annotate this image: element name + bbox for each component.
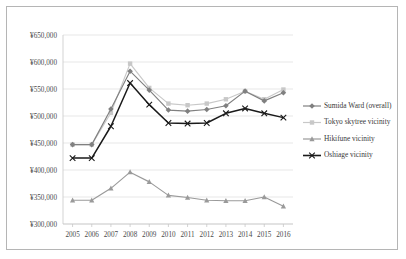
data-point-marker [185,108,191,114]
data-point-marker [310,120,314,124]
data-point-marker [127,80,133,86]
x-axis-tick-label: 2010 [161,231,176,239]
x-axis-tick-label: 2013 [219,231,234,239]
y-axis-tick-label: ¥300,000 [30,221,57,229]
y-axis-tick-label: ¥500,000 [30,113,57,121]
y-axis-tick-label: ¥450,000 [30,140,57,148]
y-axis-tick-label: ¥650,000 [30,32,57,40]
line-chart: ¥650,000¥600,000¥550,000¥500,000¥450,000… [7,7,399,251]
series-tokyo-skytree-vicinity [70,61,285,146]
series-sumida-ward-overall [70,68,286,147]
y-axis-tick-label: ¥350,000 [30,194,57,202]
series-hikifune-vicinity [70,169,286,208]
data-point-marker [224,97,228,101]
data-point-marker [185,103,189,107]
x-axis-tick-label: 2008 [123,231,138,239]
data-point-marker [146,102,152,108]
chart-plot-area: ¥650,000¥600,000¥550,000¥500,000¥450,000… [7,7,397,249]
y-axis-tick-label: ¥550,000 [30,86,57,94]
legend-item-label: Tokyo skytree vicinity [324,117,391,126]
chart-legend: Sumida Ward (overall)Tokyo skytree vicin… [303,101,392,160]
chart-figure: ¥650,000¥600,000¥550,000¥500,000¥450,000… [6,6,398,250]
x-axis-tick-label: 2006 [85,231,100,239]
legend-item-label: Oshiage vicinity [324,150,373,159]
series-oshiage-vicinity [70,80,286,161]
x-axis-tick-label: 2011 [181,231,196,239]
x-axis-tick-label: 2009 [142,231,157,239]
x-axis-tick-label: 2007 [104,231,119,239]
x-axis-tick-label: 2015 [257,231,272,239]
y-axis-tick-label: ¥600,000 [30,59,57,67]
data-point-marker [108,123,114,129]
legend-item-label: Sumida Ward (overall) [324,101,392,110]
series-line [73,71,284,144]
x-axis-tick-label: 2012 [200,231,215,239]
x-axis-tick-label: 2005 [65,231,80,239]
data-point-marker [128,61,132,65]
data-point-marker [205,101,209,105]
legend-item-label: Hikifune vicinity [324,134,375,143]
y-axis-tick-label: ¥400,000 [30,167,57,175]
series-line [73,172,284,206]
series-line [73,64,284,145]
x-axis-tick-label: 2016 [276,231,291,239]
data-point-marker [166,101,170,105]
x-axis-tick-label: 2014 [238,231,253,239]
data-point-marker [309,103,315,109]
data-point-marker [204,107,210,113]
